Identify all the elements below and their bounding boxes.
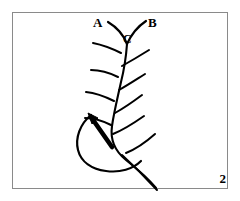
pinna-left-4 — [86, 92, 114, 101]
pinna-left-2 — [93, 43, 121, 53]
figure-number: 2 — [220, 171, 227, 187]
pinna-left-3 — [91, 70, 118, 77]
pinna-right-5 — [113, 116, 144, 134]
label-c: C — [123, 33, 132, 45]
terminal-stem-group — [122, 155, 157, 190]
terminal-stem — [122, 155, 157, 190]
pinna-right-6 — [126, 134, 155, 153]
label-a: A — [93, 16, 102, 29]
label-b: B — [148, 16, 157, 29]
frond-line-drawing — [0, 0, 240, 201]
pinna-right-4 — [115, 95, 142, 113]
direction-arrow — [88, 113, 112, 147]
figure-container: A B C 2 — [0, 0, 240, 201]
